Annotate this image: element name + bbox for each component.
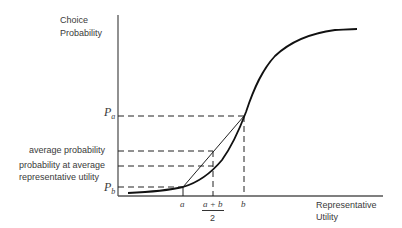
- average-probability-label: average probability: [29, 144, 105, 156]
- prob-avg-utility-label-line2: representative utility: [19, 171, 99, 183]
- b-label: b: [241, 198, 246, 210]
- midpoint-numerator-label: a + b: [202, 198, 224, 211]
- probability-curve: [128, 29, 357, 193]
- y-axis-label-line1: Choice: [60, 14, 88, 26]
- a-label: a: [180, 198, 185, 210]
- x-axis-label-line1: Representative: [316, 199, 377, 211]
- midpoint-denominator-label: 2: [210, 212, 215, 224]
- y-axis-label-line2: Probability: [60, 27, 102, 39]
- prob-avg-utility-label-line1: probability at average: [19, 159, 105, 171]
- pb-label: Pb: [104, 181, 115, 198]
- pa-label: Pa: [104, 106, 115, 123]
- x-axis-label-line2: Utility: [316, 211, 338, 223]
